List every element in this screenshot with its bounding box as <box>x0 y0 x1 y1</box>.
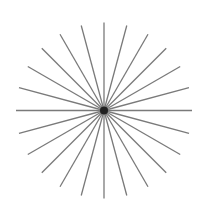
ray-line <box>19 111 104 134</box>
starburst-diagram <box>0 0 210 212</box>
ray-line <box>81 26 104 111</box>
ray-line <box>19 88 104 111</box>
center-hub <box>100 107 108 115</box>
ray-line <box>81 111 104 196</box>
ray-line <box>104 88 189 111</box>
ray-line <box>104 111 127 196</box>
ray-line <box>104 111 189 134</box>
ray-line <box>104 26 127 111</box>
